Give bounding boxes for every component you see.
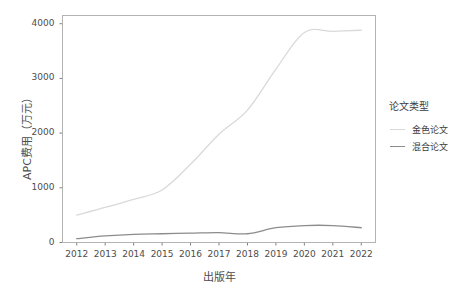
legend-line-swatch-icon bbox=[389, 124, 406, 135]
series-line bbox=[77, 225, 362, 238]
series-line bbox=[77, 29, 362, 215]
legend: 论文类型 金色论文混合论文 bbox=[389, 98, 473, 156]
legend-item-label: 混合论文 bbox=[412, 140, 448, 153]
axis-ticks bbox=[60, 24, 362, 246]
legend-title: 论文类型 bbox=[389, 98, 473, 113]
legend-item[interactable]: 金色论文 bbox=[389, 122, 473, 137]
legend-item-label: 金色论文 bbox=[412, 123, 448, 136]
line-chart: APC费用（万元） 出版年 01000200030004000 20122013… bbox=[0, 0, 474, 287]
legend-line-swatch-icon bbox=[389, 141, 406, 152]
legend-items: 金色论文混合论文 bbox=[389, 122, 473, 154]
panel-border bbox=[63, 16, 376, 243]
data-series-group bbox=[77, 29, 362, 238]
legend-item[interactable]: 混合论文 bbox=[389, 139, 473, 154]
